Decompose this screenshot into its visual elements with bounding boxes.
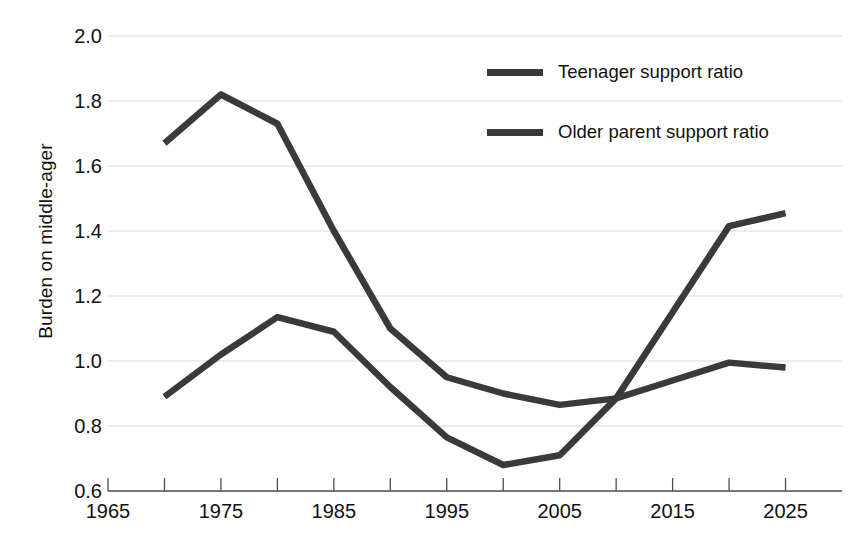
x-tick-label: 1995 [425, 500, 470, 523]
legend-swatch-icon [487, 129, 543, 136]
line-chart: Burden on middle-ager 2.0 1.8 1.6 1.4 1.… [0, 0, 868, 559]
legend-item-teenager-support-ratio[interactable]: Teenager support ratio [487, 52, 769, 92]
series-line [164, 317, 785, 465]
x-tick-label: 2025 [763, 500, 808, 523]
x-tick-label: 1975 [199, 500, 244, 523]
legend-label: Older parent support ratio [558, 121, 769, 143]
x-tick-label: 2015 [650, 500, 695, 523]
legend-swatch-icon [487, 69, 543, 76]
x-tick-label: 2005 [537, 500, 582, 523]
legend-label: Teenager support ratio [558, 61, 743, 83]
x-tick-label: 1965 [86, 500, 131, 523]
legend-item-older-parent-support-ratio[interactable]: Older parent support ratio [487, 112, 769, 152]
x-axis-ticks [108, 478, 786, 491]
x-tick-label: 1985 [312, 500, 357, 523]
legend: Teenager support ratio Older parent supp… [487, 52, 769, 152]
